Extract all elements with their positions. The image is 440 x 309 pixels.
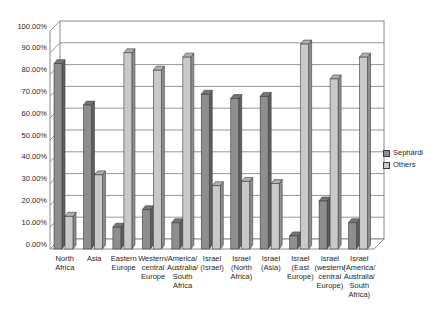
y-axis-tick-label: 40.00% bbox=[22, 152, 48, 161]
x-axis-category-label: EasternEurope bbox=[111, 254, 137, 272]
bar-others-10 bbox=[360, 53, 371, 249]
bar-sephardi-6 bbox=[231, 95, 242, 249]
bar-others-3 bbox=[153, 66, 164, 249]
y-axis-tick-label: 60.00% bbox=[22, 109, 48, 118]
y-axis-tick-label: 70.00% bbox=[22, 87, 48, 96]
bar-sephardi-1 bbox=[83, 101, 94, 249]
y-axis-tick-label: 100.00% bbox=[17, 22, 47, 31]
x-axis-category-label: Israel(America/Australia/SouthAfrica) bbox=[343, 254, 376, 299]
gridline-connector bbox=[50, 43, 60, 53]
legend-item-sephardi: Sephardi bbox=[383, 149, 423, 157]
x-axis-labels: NorthAfricaAsiaEasternEuropeWestern/cent… bbox=[55, 254, 376, 299]
x-axis-category-label: Israel(Asia) bbox=[261, 254, 281, 272]
bar-others-2 bbox=[124, 49, 135, 249]
y-axis-tick-label: 50.00% bbox=[22, 131, 48, 140]
y-axis-tick-label: 90.00% bbox=[22, 43, 48, 52]
y-axis-tick-label: 0.00% bbox=[26, 240, 48, 249]
bar-sephardi-3 bbox=[142, 206, 153, 249]
x-axis-category-label: Israel(Israel) bbox=[200, 254, 224, 272]
x-axis-category-label: Asia bbox=[87, 254, 102, 263]
x-axis-category-label: Israel(western/centralEurope) bbox=[314, 254, 346, 290]
bar-others-8 bbox=[301, 40, 312, 249]
y-axis-tick-label: 80.00% bbox=[22, 65, 48, 74]
gridline-connector bbox=[50, 21, 60, 31]
legend-swatch-sephardi bbox=[383, 150, 390, 157]
bar-others-7 bbox=[271, 180, 282, 249]
y-axis-tick-label: 20.00% bbox=[22, 196, 48, 205]
bar-others-4 bbox=[183, 53, 194, 249]
bar-sephardi-7 bbox=[260, 92, 271, 249]
bar-sephardi-9 bbox=[319, 197, 330, 249]
bar-sephardi-4 bbox=[172, 219, 183, 249]
bar-sephardi-10 bbox=[349, 219, 360, 249]
bar-others-1 bbox=[94, 171, 105, 249]
bar-sephardi-5 bbox=[201, 90, 212, 249]
bar-others-9 bbox=[330, 75, 341, 249]
legend-item-others: Others bbox=[383, 161, 423, 169]
x-axis-category-label: America/Australia/SouthAfrica bbox=[167, 254, 199, 290]
y-axis-labels: 0.00%10.00%20.00%30.00%40.00%50.00%60.00… bbox=[17, 22, 47, 249]
y-axis-tick-label: 10.00% bbox=[22, 218, 48, 227]
bar-chart-figure: 0.00%10.00%20.00%30.00%40.00%50.00%60.00… bbox=[0, 0, 440, 309]
bar-others-6 bbox=[242, 177, 253, 249]
legend-swatch-others bbox=[383, 162, 390, 169]
bar-sephardi-2 bbox=[113, 223, 124, 249]
y-axis-tick-label: 30.00% bbox=[22, 174, 48, 183]
bar-others-0 bbox=[65, 212, 76, 249]
legend: Sephardi Others bbox=[383, 149, 423, 169]
bar-others-5 bbox=[212, 182, 223, 249]
legend-label-others: Others bbox=[393, 161, 416, 169]
legend-label-sephardi: Sephardi bbox=[393, 149, 423, 157]
x-axis-category-label: Israel(NorthAfrica) bbox=[231, 254, 253, 281]
x-axis-category-label: Western/centralEurope bbox=[138, 254, 169, 281]
bar-sephardi-0 bbox=[54, 60, 65, 249]
x-axis-category-label: NorthAfrica bbox=[55, 254, 75, 272]
chart-plot-area: 0.00%10.00%20.00%30.00%40.00%50.00%60.00… bbox=[0, 0, 440, 309]
x-axis-category-label: Israel(EastEurope) bbox=[287, 254, 314, 281]
bar-sephardi-8 bbox=[290, 232, 301, 249]
